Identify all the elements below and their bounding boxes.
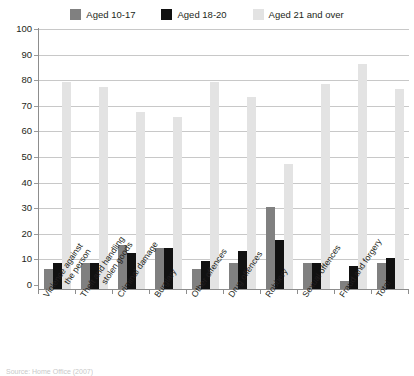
y-tick-label-90: 90 bbox=[21, 50, 32, 60]
y-tick-label-100: 100 bbox=[16, 24, 32, 34]
y-axis: 0102030405060708090100 bbox=[0, 28, 38, 298]
y-tick-label-80: 80 bbox=[21, 75, 32, 85]
chart-legend: Aged 10-17 Aged 18-20 Aged 21 and over bbox=[0, 5, 414, 23]
y-tick-label-20: 20 bbox=[21, 229, 32, 239]
legend-item-aged-18-20: Aged 18-20 bbox=[161, 9, 226, 20]
y-tick-label-60: 60 bbox=[21, 127, 32, 137]
y-tick-label-10: 10 bbox=[21, 255, 32, 265]
bar-group bbox=[261, 33, 298, 289]
gridline-100 bbox=[39, 29, 409, 30]
x-axis-category-labels: Violence againstthe personTheft and hand… bbox=[38, 294, 414, 376]
y-tick-label-50: 50 bbox=[21, 152, 32, 162]
legend-swatch-aged-21-and-over bbox=[253, 9, 264, 20]
y-tick-label-40: 40 bbox=[21, 178, 32, 188]
legend-swatch-aged-10-17 bbox=[70, 9, 81, 20]
legend-label-aged-18-20: Aged 18-20 bbox=[177, 9, 226, 20]
source-caption: Source: Home Office (2007) bbox=[6, 368, 93, 376]
legend-swatch-aged-18-20 bbox=[161, 9, 172, 20]
legend-label-aged-21-and-over: Aged 21 and over bbox=[269, 9, 344, 20]
legend-item-aged-21-and-over: Aged 21 and over bbox=[253, 9, 344, 20]
bar bbox=[395, 89, 404, 289]
bar bbox=[173, 117, 182, 289]
legend-label-aged-10-17: Aged 10-17 bbox=[86, 9, 135, 20]
legend-item-aged-10-17: Aged 10-17 bbox=[70, 9, 135, 20]
y-tick-label-70: 70 bbox=[21, 101, 32, 111]
y-tick-label-30: 30 bbox=[21, 203, 32, 213]
bar-chart: 0102030405060708090100 Violence againstt… bbox=[0, 28, 414, 376]
y-tick-label-0: 0 bbox=[27, 280, 32, 290]
